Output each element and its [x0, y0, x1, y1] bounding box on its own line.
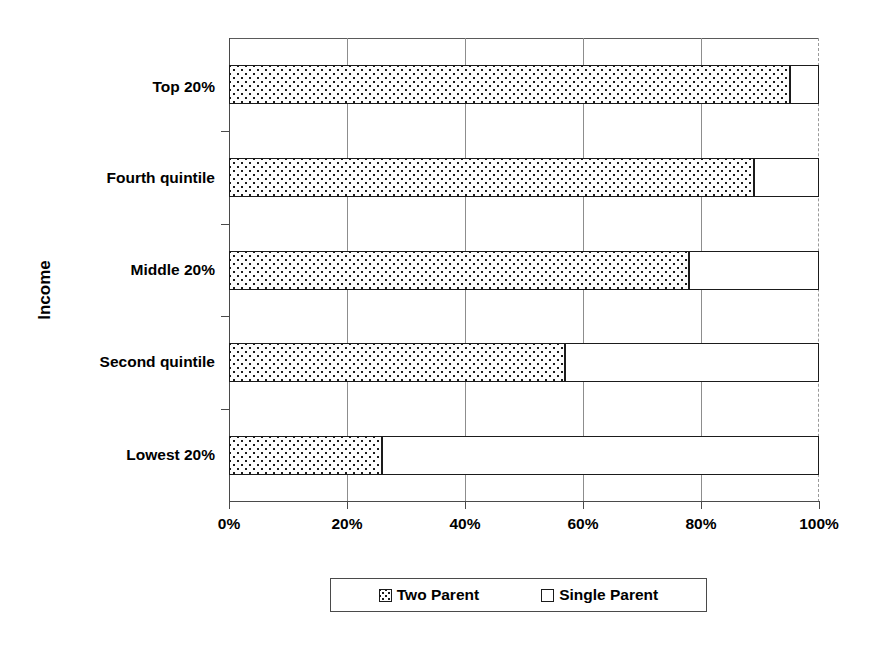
x-axis-tick-80: [701, 501, 702, 509]
x-axis-tick-label-80pct: 80%: [656, 515, 746, 533]
y-axis-category-labels: Top 20% Fourth quintile Middle 20% Secon…: [15, 0, 215, 510]
bar-segment-single-parent[interactable]: [382, 436, 819, 475]
x-axis-tick-label-20pct: 20%: [302, 515, 392, 533]
bar-segment-two-parent[interactable]: [229, 65, 790, 104]
y-axis-tick-label-fourth-quintile: Fourth quintile: [25, 169, 215, 187]
x-axis-line: [229, 501, 819, 502]
bar-segment-two-parent[interactable]: [229, 436, 382, 475]
y-axis-tick: [221, 409, 229, 410]
y-axis-tick: [221, 131, 229, 132]
plot-frame-top-border: [229, 38, 819, 39]
bar-segment-two-parent[interactable]: [229, 343, 565, 382]
x-axis-tick-label-60pct: 60%: [538, 515, 628, 533]
x-axis-tick-0: [229, 501, 230, 509]
x-axis-tick-label-0pct: 0%: [184, 515, 274, 533]
y-axis-tick-label-second-quintile: Second quintile: [25, 353, 215, 371]
x-axis-tick-label-100pct: 100%: [774, 515, 864, 533]
bar-row[interactable]: [229, 65, 819, 104]
y-axis-tick-label-middle-20: Middle 20%: [25, 261, 215, 279]
bar-segment-single-parent[interactable]: [689, 251, 819, 290]
legend-label-two-parent: Two Parent: [397, 586, 479, 604]
x-axis-tick-100: [819, 501, 820, 509]
bar-row[interactable]: [229, 251, 819, 290]
legend-entry-two-parent[interactable]: Two Parent: [379, 586, 479, 604]
plot-area: [229, 38, 819, 502]
bar-segment-single-parent[interactable]: [754, 158, 819, 197]
bar-row[interactable]: [229, 343, 819, 382]
legend-entry-single-parent[interactable]: Single Parent: [541, 586, 658, 604]
bar-segment-two-parent[interactable]: [229, 158, 754, 197]
bar-row[interactable]: [229, 158, 819, 197]
bar-segment-two-parent[interactable]: [229, 251, 689, 290]
x-axis-tick-label-40pct: 40%: [420, 515, 510, 533]
legend-swatch-single-parent-icon: [541, 589, 554, 602]
x-axis-tick-20: [347, 501, 348, 509]
stacked-bar-chart: Income Top 20% Fourth quintile Middle 20…: [0, 0, 892, 646]
chart-legend: Two Parent Single Parent: [330, 578, 707, 612]
y-axis-tick-label-top-20: Top 20%: [25, 78, 215, 96]
bar-segment-single-parent[interactable]: [790, 65, 820, 104]
legend-swatch-two-parent-icon: [379, 589, 392, 602]
legend-label-single-parent: Single Parent: [559, 586, 658, 604]
x-axis-tick-60: [583, 501, 584, 509]
y-axis-tick-label-lowest-20: Lowest 20%: [25, 446, 215, 464]
bar-row[interactable]: [229, 436, 819, 475]
x-axis-tick-40: [465, 501, 466, 509]
bar-segment-single-parent[interactable]: [565, 343, 819, 382]
y-axis-tick: [221, 224, 229, 225]
y-axis-tick: [221, 316, 229, 317]
